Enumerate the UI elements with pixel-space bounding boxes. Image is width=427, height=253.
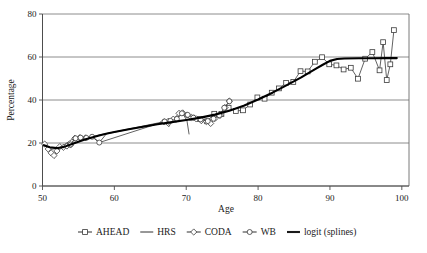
data-point-marker: [227, 99, 232, 104]
data-point-marker: [312, 59, 317, 64]
legend-label-hrs: HRS: [157, 227, 175, 237]
y-axis-title: Percentage: [6, 79, 16, 121]
data-point-marker: [392, 28, 397, 33]
y-tick-label-0: 0: [32, 181, 37, 191]
legend-label-wb: WB: [261, 227, 276, 237]
data-point-marker: [388, 62, 393, 67]
data-point-marker: [97, 140, 102, 145]
data-point-marker: [381, 40, 386, 45]
legend-marker-square: [83, 230, 88, 235]
data-point-marker: [356, 76, 361, 81]
data-point-marker: [185, 112, 190, 117]
data-point-marker: [211, 116, 216, 121]
data-point-marker: [348, 65, 353, 70]
data-point-marker: [334, 63, 339, 68]
y-tick-label-20: 20: [28, 138, 38, 148]
data-point-marker: [241, 108, 246, 113]
x-tick-label-100: 100: [395, 193, 409, 203]
data-point-marker: [73, 136, 78, 141]
data-point-marker: [341, 67, 346, 72]
x-axis-title: Age: [218, 204, 234, 214]
data-point-marker: [370, 50, 375, 55]
legend-marker-circle: [247, 230, 252, 235]
data-point-marker: [179, 111, 184, 116]
legend-label-coda: CODA: [205, 227, 232, 237]
legend-label-ahead: AHEAD: [96, 227, 129, 237]
data-point-marker: [377, 68, 382, 73]
x-tick-label-70: 70: [182, 193, 192, 203]
data-point-marker: [298, 69, 303, 74]
x-tick-label-80: 80: [254, 193, 264, 203]
data-point-marker: [384, 78, 389, 83]
chart-figure: 020406080 5060708090100 Percentage Age A…: [0, 0, 427, 253]
y-tick-label-60: 60: [28, 52, 38, 62]
x-tick-label-50: 50: [38, 193, 48, 203]
data-point-marker: [222, 105, 227, 110]
chart-legend: AHEADHRSCODAWBlogit (splines): [78, 227, 356, 238]
x-tick-label-60: 60: [110, 193, 120, 203]
legend-label-logit-splines-: logit (splines): [304, 227, 357, 238]
y-tick-label-80: 80: [28, 9, 38, 19]
chart-canvas: 020406080 5060708090100 Percentage Age A…: [0, 0, 427, 253]
x-tick-label-90: 90: [325, 193, 335, 203]
y-tick-label-40: 40: [28, 95, 38, 105]
data-point-marker: [320, 55, 325, 60]
data-point-marker: [205, 119, 210, 124]
chart-background: [0, 0, 427, 253]
